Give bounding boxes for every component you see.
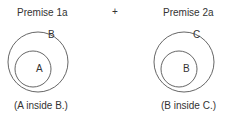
caption-2a: (B inside C.) <box>161 100 216 111</box>
outer-label-b: B <box>48 29 55 40</box>
premise-1a-diagram <box>8 32 68 92</box>
inner-label-b: B <box>183 63 190 74</box>
premise-2a-diagram <box>154 32 214 92</box>
outer-circle-b <box>8 32 68 92</box>
inner-circle-a <box>15 51 51 87</box>
caption-1a: (A inside B.) <box>14 100 68 111</box>
inner-circle-b <box>161 51 197 87</box>
inner-label-a: A <box>36 63 43 74</box>
outer-circle-c <box>154 32 214 92</box>
outer-label-c: C <box>193 29 200 40</box>
